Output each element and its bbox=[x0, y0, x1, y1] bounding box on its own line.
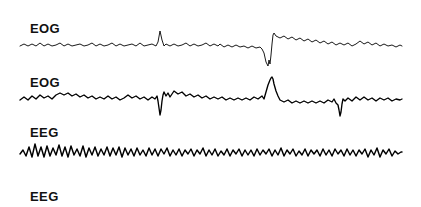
biosignal-figure: EOG EOG EEG EEG bbox=[0, 0, 421, 207]
trace-eeg-2 bbox=[0, 0, 421, 207]
